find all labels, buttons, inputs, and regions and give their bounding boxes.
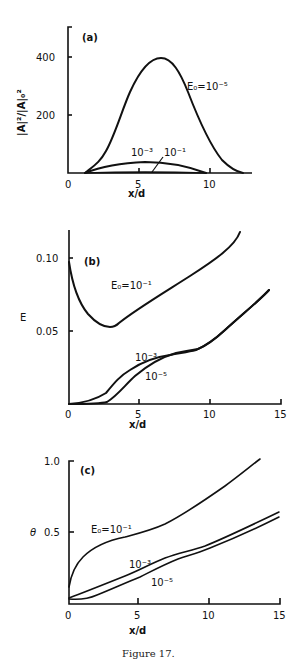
figure-17: 400 200 0 5 10 x/d |A|²/|A|₀² (a) E₀=10⁻…	[0, 0, 301, 660]
panel-c-annotation-e1: E₀=10⁻¹	[91, 524, 132, 535]
panel-c-label: (c)	[80, 465, 95, 476]
panel-a: 400 200 0 5 10 x/d |A|²/|A|₀² (a) E₀=10⁻…	[16, 27, 252, 199]
panel-b-xtick-label: 15	[274, 409, 287, 420]
panel-a-xtick-label: 0	[65, 179, 71, 190]
panel-a-label: (a)	[82, 32, 98, 43]
panel-b-xlabel: x/d	[129, 419, 146, 430]
panel-b-xtick-label: 10	[203, 409, 216, 420]
panel-a-xlabel: x/d	[128, 188, 145, 199]
panel-c-annotation-e5: 10⁻⁵	[151, 577, 173, 588]
panel-a-curve-e1	[85, 172, 206, 173]
panel-b-curve-e3	[69, 290, 269, 404]
figure-caption: Figure 17.	[122, 648, 175, 659]
panel-a-leader-line	[152, 157, 163, 172]
panel-c-xlabel: x/d	[129, 625, 146, 636]
panel-c-ytick-label: 0.5	[44, 527, 60, 538]
panel-a-annotation-e3: 10⁻³	[131, 147, 153, 158]
panel-b-annotation-e5: 10⁻⁵	[145, 371, 167, 382]
panel-b-xtick-label: 0	[65, 409, 71, 420]
panel-c-xtick-label: 10	[202, 610, 215, 621]
panel-b-label: (b)	[84, 256, 100, 267]
panel-c-ylabel: θ	[30, 527, 36, 538]
panel-a-ylabel: |A|²/|A|₀²	[16, 89, 28, 136]
panel-a-annotation-e5: E₀=10⁻⁵	[187, 81, 228, 92]
panel-b-ylabel: E	[20, 312, 26, 323]
panel-c-annotation-e3: 10⁻³	[129, 559, 151, 570]
panel-a-ytick-label: 200	[36, 110, 55, 121]
panel-a-curve-e3	[85, 162, 206, 173]
panel-a-axes	[68, 27, 252, 173]
panel-a-xtick-label: 10	[203, 179, 216, 190]
panel-c: 1.0 0.5 θ 0 5 10 15 x/d (c) E₀=10⁻¹ 10⁻³…	[30, 456, 286, 636]
panel-c-curve-e1	[69, 459, 260, 587]
panel-c-ytick-label: 1.0	[44, 456, 60, 467]
panel-b-curve-e5	[69, 290, 269, 404]
panel-b-curve-e1	[69, 232, 240, 327]
panel-b: 0.10 0.05 E 0 5 10 15 x/d (b) E₀=10⁻¹ 10…	[20, 230, 287, 430]
panel-b-annotation-e3: 10⁻³	[135, 352, 157, 363]
panel-a-ytick-label: 400	[36, 52, 55, 63]
panel-b-axes	[69, 230, 281, 404]
panel-b-ytick-label: 0.10	[36, 253, 58, 264]
panel-b-ytick-label: 0.05	[36, 326, 58, 337]
panel-c-xtick-label: 15	[273, 610, 286, 621]
panel-c-xtick-label: 5	[134, 610, 140, 621]
panel-c-xtick-label: 0	[65, 610, 71, 621]
panel-a-annotation-e1: 10⁻¹	[164, 147, 186, 158]
panel-b-annotation-e1: E₀=10⁻¹	[111, 280, 152, 291]
